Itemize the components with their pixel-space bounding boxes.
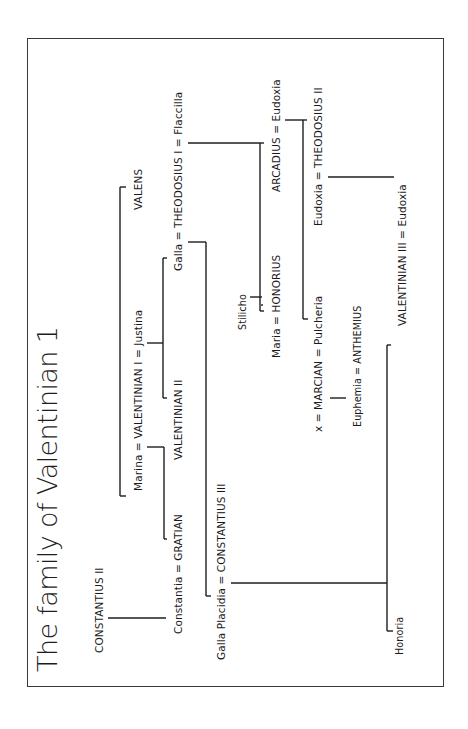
diagram-title: The family of Valentinian 1 <box>33 327 63 672</box>
node-galla-placidia-constantius-iii: Galla Placidia = CONSTANTIUS III <box>215 484 227 660</box>
node-constantius-ii: CONSTANTIUS II <box>93 567 105 653</box>
family-tree-page: The family of Valentinian 1 CONSTANTIUS … <box>0 0 468 729</box>
node-valentinian-iii-eudoxia: VALENTINIAN III = Eudoxia <box>396 184 408 326</box>
node-marina-valentinian-i-justina: Marina = VALENTINIAN I = Justina <box>132 310 144 491</box>
node-honoria: Honoria <box>394 617 406 655</box>
node-arcadius-eudoxia: ARCADIUS = Eudoxia <box>270 79 282 192</box>
node-galla-theodosius-i-flaccilla: Galla = THEODOSIUS I = Flaccilla <box>172 92 184 271</box>
node-maria-honorius: Maria = HONORIUS <box>270 255 282 358</box>
node-valens: VALENS <box>132 169 144 210</box>
node-constantia-gratian: Constantia = GRATIAN <box>172 514 184 634</box>
node-euphemia-anthemius: Euphemia = ANTHEMIUS <box>352 306 364 427</box>
node-x-marcian-pulcheria: x = MARCIAN = Pulcheria <box>312 296 324 432</box>
node-eudoxia-theodosius-ii: Eudoxia = THEODOSIUS II <box>312 87 324 226</box>
node-valentinian-ii: VALENTINIAN II <box>172 380 184 460</box>
node-stilicho: Stilicho <box>237 294 249 330</box>
